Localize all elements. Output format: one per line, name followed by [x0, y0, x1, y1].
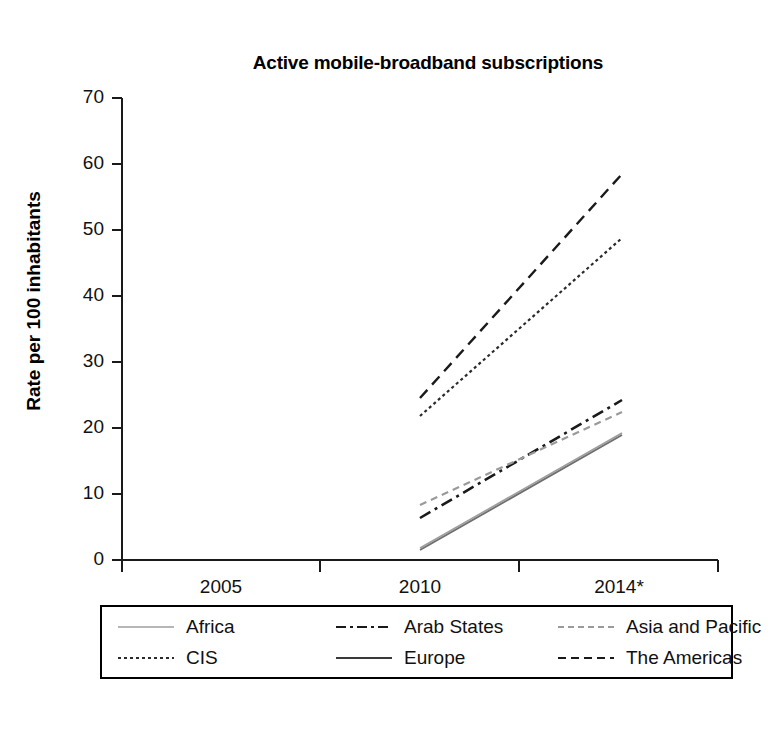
- y-tick-label-20: 20: [44, 416, 104, 438]
- legend-label-the-americas: The Americas: [626, 647, 742, 669]
- x-tick-label-2005: 2005: [141, 576, 301, 598]
- chart-figure: Active mobile-broadband subscriptions Ra…: [0, 0, 776, 729]
- legend-swatch-arab-states: [334, 620, 394, 634]
- x-axis-ticks: [122, 560, 718, 572]
- legend-label-arab-states: Arab States: [404, 616, 503, 638]
- x-tick-label-2014: 2014*: [539, 576, 699, 598]
- series-line-the-americas: [420, 174, 622, 398]
- chart-legend: Africa Arab States Asia and Pacific CIS: [100, 605, 733, 679]
- legend-label-europe: Europe: [404, 647, 465, 669]
- legend-item-the-americas[interactable]: The Americas: [556, 647, 761, 669]
- y-tick-label-40: 40: [44, 284, 104, 306]
- legend-label-asia-and-pacific: Asia and Pacific: [626, 616, 761, 638]
- legend-label-cis: CIS: [186, 647, 218, 669]
- legend-swatch-europe: [334, 651, 394, 665]
- y-tick-label-50: 50: [44, 218, 104, 240]
- legend-item-arab-states[interactable]: Arab States: [334, 616, 556, 638]
- legend-item-africa[interactable]: Africa: [116, 616, 334, 638]
- y-axis-ticks: [112, 98, 122, 560]
- y-tick-label-60: 60: [44, 152, 104, 174]
- series-line-europe: [420, 435, 622, 550]
- legend-swatch-cis: [116, 651, 176, 665]
- legend-item-asia-and-pacific[interactable]: Asia and Pacific: [556, 616, 761, 638]
- y-tick-label-0: 0: [44, 548, 104, 570]
- y-tick-label-10: 10: [44, 482, 104, 504]
- legend-swatch-asia-and-pacific: [556, 620, 616, 634]
- y-tick-label-70: 70: [44, 86, 104, 108]
- x-tick-label-2010: 2010: [340, 576, 500, 598]
- series-line-cis: [420, 238, 622, 416]
- legend-item-europe[interactable]: Europe: [334, 647, 556, 669]
- y-tick-label-30: 30: [44, 350, 104, 372]
- legend-swatch-the-americas: [556, 651, 616, 665]
- legend-item-cis[interactable]: CIS: [116, 647, 334, 669]
- series-line-africa: [420, 433, 622, 548]
- legend-label-africa: Africa: [186, 616, 235, 638]
- legend-swatch-africa: [116, 620, 176, 634]
